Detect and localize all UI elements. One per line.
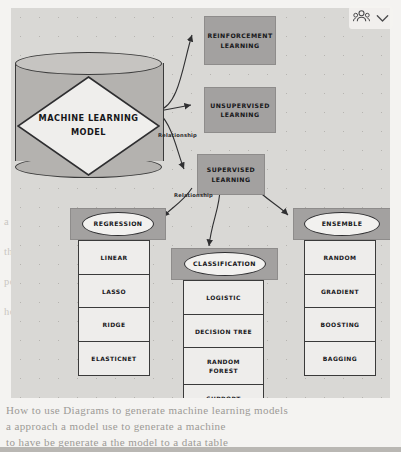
cylinder-top (15, 52, 162, 75)
edge-label-relationship-1: Relationship (158, 132, 197, 138)
node-unsupervised-learning[interactable]: Unsupervised Learning (204, 87, 276, 133)
unsupervised-line2: Learning (210, 111, 270, 118)
leaf-label: Lasso (102, 288, 126, 295)
leaf-label: Bagging (323, 355, 357, 362)
root-label-line2: Model (71, 128, 106, 138)
reinforcement-line2: Learning (207, 42, 272, 49)
leaf-label: Gradient (321, 288, 359, 295)
leaf-label: Support (206, 395, 241, 398)
leaf-classification-3[interactable]: Random Forest (183, 347, 264, 385)
leaf-regression-1[interactable]: Linear (78, 240, 150, 275)
node-reinforcement-learning[interactable]: Reinforcement Learning (204, 16, 276, 65)
branch-classification[interactable]: Classification Logistic Decision Tree Ra… (171, 248, 276, 398)
leaf-classification-1[interactable]: Logistic (183, 280, 264, 315)
chevron-down-icon[interactable] (376, 8, 389, 27)
edge-label-relationship-2: Relationship (174, 192, 213, 198)
leaf-ensemble-3[interactable]: Boosting (304, 307, 376, 342)
root-label-line1: Machine Learning (39, 114, 139, 124)
branch-title-regression: Regression (94, 220, 143, 227)
machine-learning-model-node[interactable]: Machine Learning Model (15, 52, 162, 167)
leaf-regression-3[interactable]: Ridge (78, 307, 150, 342)
supervised-line1: Supervised (207, 166, 255, 173)
leaf-ensemble-4[interactable]: Bagging (304, 341, 376, 376)
reinforcement-line1: Reinforcement (207, 32, 272, 39)
leaf-label: Random (207, 358, 240, 365)
leaf-label: Random (323, 254, 356, 261)
leaf-ensemble-2[interactable]: Gradient (304, 274, 376, 309)
leaf-regression-2[interactable]: Lasso (78, 274, 150, 309)
leaf-ensemble-1[interactable]: Random (304, 240, 376, 275)
leaf-regression-4[interactable]: ElasticNet (78, 341, 150, 376)
page-divider (0, 447, 401, 452)
branch-title-ensemble: Ensemble (322, 220, 363, 227)
leaf-classification-2[interactable]: Decision Tree (183, 314, 264, 349)
background-text: a approach a model use to generate a mac… (6, 420, 226, 432)
branch-header-classification[interactable]: Classification (171, 248, 278, 280)
leaf-label: Forest (209, 367, 238, 374)
branch-header-regression[interactable]: Regression (70, 208, 166, 240)
background-text: How to use Diagrams to generate machine … (6, 404, 288, 416)
leaf-label: Ridge (102, 321, 125, 328)
node-supervised-learning[interactable]: Supervised Learning (197, 154, 265, 195)
leaf-label: Boosting (321, 321, 360, 328)
people-group-icon[interactable] (353, 8, 370, 27)
supervised-line2: Learning (207, 176, 255, 183)
branch-header-ensemble[interactable]: Ensemble (293, 208, 390, 240)
leaf-label: Decision Tree (195, 328, 252, 335)
collaborators-control[interactable] (349, 6, 393, 29)
diagram-canvas[interactable]: Machine Learning Model Reinforcement Lea… (11, 8, 390, 398)
leaf-label: ElasticNet (91, 355, 136, 362)
unsupervised-line1: Unsupervised (210, 102, 270, 109)
leaf-classification-4[interactable]: Support Vector (183, 384, 264, 398)
leaf-label: Linear (100, 254, 127, 261)
branch-regression[interactable]: Regression Linear Lasso Ridge ElasticNet (70, 208, 164, 376)
branch-ensemble[interactable]: Ensemble Random Gradient Boosting Baggin… (293, 208, 389, 376)
branch-title-classification: Classification (193, 260, 256, 267)
leaf-label: Logistic (206, 294, 241, 301)
